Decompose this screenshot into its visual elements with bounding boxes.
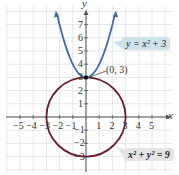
x-tick-label: −5 [13, 120, 24, 131]
y-tick-label: 7 [78, 19, 83, 30]
y-axis-label: y [82, 0, 87, 9]
y-tick-label: 3 [78, 71, 83, 82]
point-annotation: (0, 3) [106, 64, 128, 75]
y-tick-label: 5 [78, 45, 83, 56]
y-tick-label: 2 [78, 85, 83, 96]
y-tick-label: −1 [74, 124, 85, 135]
y-tick-label: 4 [78, 58, 83, 69]
x-tick-label: −4 [26, 120, 37, 131]
y-axis-arrow-icon [84, 10, 89, 15]
x-tick-label: 1 [96, 120, 101, 131]
y-tick-label: −2 [74, 137, 85, 148]
x-axis-label: x [168, 109, 173, 121]
circle-equation-label: x² + y² = 9 [124, 148, 174, 161]
y-tick-label: 6 [78, 32, 83, 43]
x-tick-label: 4 [136, 120, 141, 131]
parabola-equation-label: y = x² + 3 [122, 37, 170, 50]
y-tick-label: 1 [78, 98, 83, 109]
graph-figure: y x (0, 3) y = x² + 3 x² + y² = 9 −5−4−3… [0, 0, 179, 175]
x-tick-label: −2 [53, 120, 64, 131]
intersection-point [84, 75, 88, 79]
x-tick-label: 2 [109, 120, 114, 131]
x-tick-label: −3 [39, 120, 50, 131]
x-tick-label: 5 [149, 120, 154, 131]
y-tick-label: −3 [74, 151, 85, 162]
x-tick-label: 3 [123, 120, 128, 131]
